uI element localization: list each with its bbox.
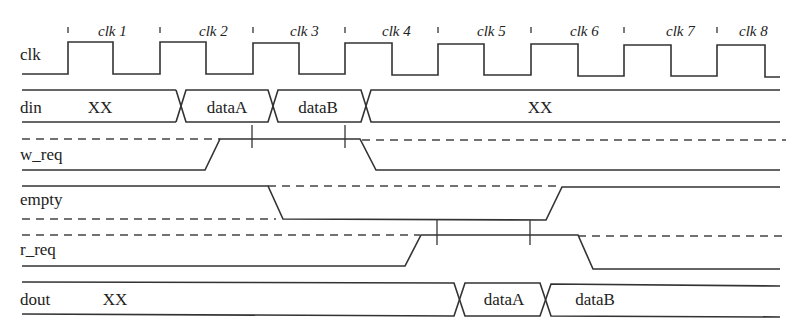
signal-label-w-req: w_req <box>20 145 63 164</box>
clk-cycle-label-2: clk 2 <box>199 23 228 39</box>
timing-diagram: clk din w_req empty r_req dout clk 1 clk… <box>0 0 808 334</box>
dout-value-xx: XX <box>103 290 128 309</box>
dout-value-dataA: dataA <box>484 290 525 309</box>
din-value-dataA: dataA <box>207 98 248 117</box>
w-req-waveform <box>22 139 786 170</box>
din-value-xx-1: XX <box>88 98 113 117</box>
clk-cycle-label-7: clk 7 <box>666 23 696 39</box>
clk-cycle-label-1: clk 1 <box>98 23 127 39</box>
empty-waveform <box>22 186 780 220</box>
clk-cycle-label-6: clk 6 <box>570 23 599 39</box>
signal-label-clk: clk <box>20 45 41 64</box>
dout-value-dataB: dataB <box>575 290 615 309</box>
clk-cycle-label-3: clk 3 <box>290 23 319 39</box>
clk-waveform <box>22 42 780 77</box>
signal-label-empty: empty <box>20 190 63 209</box>
signal-label-r-req: r_req <box>20 240 56 259</box>
din-value-dataB: dataB <box>298 98 338 117</box>
dout-waveform <box>22 282 780 317</box>
din-waveform <box>22 90 780 122</box>
r-req-waveform <box>22 235 786 269</box>
signal-label-dout: dout <box>20 290 51 309</box>
din-value-xx-2: XX <box>528 98 553 117</box>
signal-label-din: din <box>20 98 42 117</box>
clk-cycle-label-8: clk 8 <box>739 23 768 39</box>
clk-cycle-label-5: clk 5 <box>477 23 506 39</box>
clk-cycle-label-4: clk 4 <box>382 23 411 39</box>
